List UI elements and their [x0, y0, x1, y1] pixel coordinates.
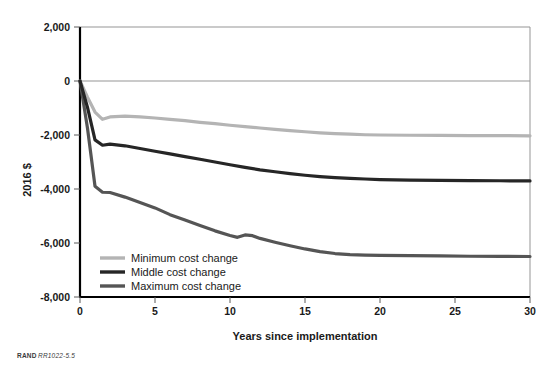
chart-legend: Minimum cost change Middle cost change M… [100, 252, 241, 292]
y-axis-title: 2016 $ [21, 163, 33, 197]
x-axis-tick-labels: 0 5 10 15 20 25 30 [77, 305, 536, 317]
legend-label-middle: Middle cost change [131, 266, 226, 278]
y-tick-label-0: 0 [64, 75, 70, 87]
x-tick-label-10: 10 [224, 305, 236, 317]
source-note: RAND RR1022-5.5 [17, 352, 75, 359]
figure-container: 2,000 0 -2,000 -4,000 -6,000 -8,000 0 5 … [0, 0, 559, 377]
cost-change-line-chart: 2,000 0 -2,000 -4,000 -6,000 -8,000 0 5 … [0, 0, 559, 377]
y-tick-label-minus8000: -8,000 [40, 291, 70, 303]
x-tick-label-0: 0 [77, 305, 83, 317]
source-note-figure-id: RR1022-5.5 [38, 352, 75, 359]
y-tick-label-minus6000: -6,000 [40, 237, 70, 249]
y-tick-label-2000: 2,000 [44, 21, 70, 33]
x-tick-label-30: 30 [524, 305, 536, 317]
x-tick-label-25: 25 [449, 305, 461, 317]
legend-label-minimum: Minimum cost change [131, 252, 238, 264]
y-tick-label-minus4000: -4,000 [40, 183, 70, 195]
y-tick-label-minus2000: -2,000 [40, 129, 70, 141]
x-axis-title: Years since implementation [233, 330, 378, 342]
x-tick-label-15: 15 [299, 305, 311, 317]
legend-label-maximum: Maximum cost change [131, 280, 241, 292]
y-axis-tick-labels: 2,000 0 -2,000 -4,000 -6,000 -8,000 [40, 21, 70, 303]
source-note-rand-label: RAND [17, 352, 37, 359]
x-tick-label-20: 20 [374, 305, 386, 317]
x-tick-label-5: 5 [152, 305, 158, 317]
